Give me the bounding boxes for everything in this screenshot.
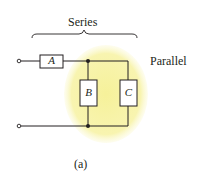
component-a-label: A bbox=[40, 54, 63, 66]
caption: (a) bbox=[74, 157, 87, 172]
component-b-label: B bbox=[80, 86, 97, 98]
series-brace bbox=[32, 30, 137, 38]
component-c-label: C bbox=[120, 86, 137, 98]
junction-bottom bbox=[86, 124, 90, 128]
circuit-diagram bbox=[0, 0, 198, 181]
terminal-top bbox=[17, 59, 21, 63]
parallel-label: Parallel bbox=[150, 54, 187, 69]
terminal-bottom bbox=[17, 124, 21, 128]
series-label: Series bbox=[68, 15, 97, 30]
junction-top bbox=[86, 59, 90, 63]
